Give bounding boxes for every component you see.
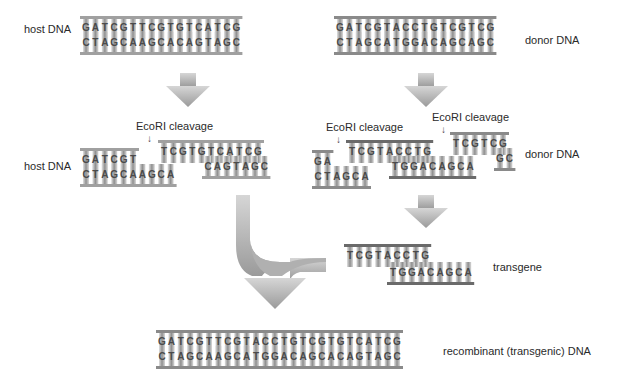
svg-text:C: C <box>196 351 203 362</box>
svg-text:G: G <box>224 351 232 362</box>
svg-text:A: A <box>242 161 249 172</box>
svg-text:A: A <box>365 336 372 347</box>
svg-text:T: T <box>384 22 390 33</box>
svg-text:A: A <box>214 161 221 172</box>
svg-text:G: G <box>148 37 156 48</box>
svg-text:C: C <box>271 336 278 347</box>
svg-text:T: T <box>253 351 259 362</box>
svg-text:A: A <box>214 37 221 48</box>
svg-text:G: G <box>487 22 495 33</box>
svg-text:C: C <box>158 169 165 180</box>
svg-text:T: T <box>346 37 352 48</box>
svg-text:C: C <box>309 336 316 347</box>
svg-text:G: G <box>82 22 90 33</box>
svg-text:A: A <box>468 37 475 48</box>
down-arrow-icon <box>166 73 210 107</box>
svg-text:A: A <box>243 351 250 362</box>
svg-text:A: A <box>129 37 136 48</box>
svg-text:A: A <box>467 161 474 172</box>
svg-text:G: G <box>82 154 90 165</box>
svg-text:G: G <box>251 161 259 172</box>
svg-text:A: A <box>361 171 368 182</box>
svg-text:C: C <box>374 37 381 48</box>
svg-text:A: A <box>355 37 362 48</box>
svg-text:T: T <box>186 22 192 33</box>
svg-text:T: T <box>356 22 362 33</box>
svg-text:A: A <box>205 351 212 362</box>
svg-text:G: G <box>110 37 118 48</box>
svg-text:A: A <box>101 169 108 180</box>
svg-text:C: C <box>111 154 118 165</box>
svg-text:G: G <box>254 146 262 157</box>
svg-text:C: C <box>430 37 437 48</box>
svg-text:C: C <box>403 250 410 261</box>
svg-text:T: T <box>422 22 428 33</box>
svg-text:C: C <box>290 351 297 362</box>
svg-text:C: C <box>170 146 177 157</box>
svg-text:G: G <box>367 146 375 157</box>
svg-text:C: C <box>395 146 402 157</box>
svg-text:G: G <box>458 22 466 33</box>
svg-text:T: T <box>205 37 211 48</box>
svg-text:T: T <box>413 250 419 261</box>
svg-text:G: G <box>499 138 507 149</box>
svg-text:A: A <box>420 161 427 172</box>
svg-text:C: C <box>487 37 494 48</box>
svg-text:C: C <box>224 336 231 347</box>
svg-text:G: G <box>196 336 204 347</box>
svg-text:T: T <box>215 22 221 33</box>
svg-text:C: C <box>356 250 363 261</box>
svg-text:G: G <box>402 37 410 48</box>
svg-text:G: G <box>356 351 364 362</box>
svg-text:C: C <box>455 267 462 278</box>
svg-text:A: A <box>465 267 472 278</box>
svg-text:G: G <box>446 267 454 278</box>
svg-text:T: T <box>168 351 174 362</box>
svg-text:C: C <box>405 146 412 157</box>
svg-text:G: G <box>364 37 372 48</box>
merge-arrow-icon <box>236 195 326 309</box>
svg-text:T: T <box>244 336 250 347</box>
svg-text:C: C <box>490 138 497 149</box>
svg-text:C: C <box>314 171 321 182</box>
svg-text:A: A <box>421 37 428 48</box>
svg-text:A: A <box>393 22 400 33</box>
svg-text:G: G <box>342 171 350 182</box>
svg-text:T: T <box>349 146 355 157</box>
svg-text:C: C <box>429 161 436 172</box>
svg-text:G: G <box>421 250 429 261</box>
svg-text:A: A <box>205 22 212 33</box>
svg-text:G: G <box>393 336 401 347</box>
svg-text:G: G <box>223 161 231 172</box>
svg-text:C: C <box>234 351 241 362</box>
svg-text:C: C <box>158 37 165 48</box>
svg-text:A: A <box>177 351 184 362</box>
svg-text:A: A <box>346 22 353 33</box>
svg-text:A: A <box>324 156 331 167</box>
svg-text:G: G <box>179 146 187 157</box>
svg-text:G: G <box>430 22 438 33</box>
svg-text:T: T <box>375 250 381 261</box>
svg-text:A: A <box>167 37 174 48</box>
svg-text:C: C <box>245 146 252 157</box>
svg-text:G: G <box>337 336 345 347</box>
svg-text:G: G <box>318 336 326 347</box>
svg-text:C: C <box>176 37 183 48</box>
svg-text:A: A <box>333 171 340 182</box>
svg-text:G: G <box>290 336 298 347</box>
svg-text:G: G <box>176 22 184 33</box>
svg-text:G: G <box>411 37 419 48</box>
svg-text:T: T <box>130 22 136 33</box>
svg-text:C: C <box>204 161 211 172</box>
svg-text:T: T <box>102 154 108 165</box>
svg-text:T: T <box>189 146 195 157</box>
svg-text:A: A <box>168 336 175 347</box>
svg-text:G: G <box>401 161 409 172</box>
svg-text:T: T <box>469 22 475 33</box>
svg-text:A: A <box>436 267 443 278</box>
svg-text:C: C <box>336 37 343 48</box>
svg-text:C: C <box>233 37 240 48</box>
svg-text:C: C <box>506 153 513 164</box>
dna-diagram: GATCGTTCGTGTCATCGCTAGCAAGCACAGTAGCGATCGT… <box>0 0 619 391</box>
svg-text:A: A <box>386 146 393 157</box>
